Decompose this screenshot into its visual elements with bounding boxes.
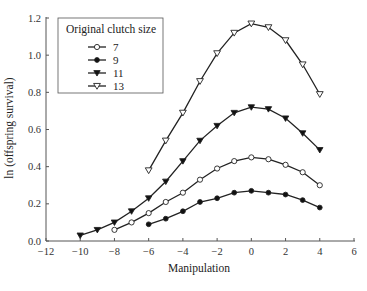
data-point bbox=[163, 199, 168, 204]
data-point bbox=[163, 216, 168, 221]
y-tick-label: 0.0 bbox=[28, 236, 41, 247]
data-point bbox=[129, 220, 134, 225]
legend-label: 13 bbox=[113, 80, 125, 92]
y-tick-label: 1.0 bbox=[28, 50, 41, 61]
data-point bbox=[300, 170, 305, 175]
y-tick-label: 0.2 bbox=[28, 198, 41, 209]
data-point bbox=[215, 166, 220, 171]
x-tick-label: 6 bbox=[351, 246, 356, 257]
series-11 bbox=[77, 105, 323, 239]
legend-label: 9 bbox=[113, 54, 119, 66]
y-axis-title: ln (offspring survival) bbox=[3, 77, 16, 179]
data-point bbox=[317, 205, 322, 210]
data-point bbox=[232, 190, 237, 195]
data-point bbox=[145, 168, 152, 174]
data-point bbox=[197, 177, 202, 182]
x-axis-title: Manipulation bbox=[168, 262, 230, 275]
series-line bbox=[80, 107, 320, 235]
legend-title: Original clutch size bbox=[66, 23, 156, 36]
data-point bbox=[317, 183, 322, 188]
data-point bbox=[299, 62, 306, 68]
x-tick-label: −2 bbox=[212, 246, 223, 257]
data-point bbox=[232, 158, 237, 163]
legend-marker bbox=[94, 44, 99, 49]
data-point bbox=[146, 222, 151, 227]
x-tick-label: −6 bbox=[143, 246, 154, 257]
series-line bbox=[149, 24, 320, 171]
data-point bbox=[214, 51, 221, 57]
data-point bbox=[249, 155, 254, 160]
data-point bbox=[249, 188, 254, 193]
y-tick-label: 1.2 bbox=[28, 13, 41, 24]
x-tick-label: 4 bbox=[317, 246, 323, 257]
data-point bbox=[215, 196, 220, 201]
chart: −12−10−8−6−4−202460.00.20.40.60.81.01.2 … bbox=[0, 0, 367, 291]
data-point bbox=[180, 209, 185, 214]
data-point bbox=[317, 148, 323, 153]
series-7 bbox=[112, 155, 323, 233]
data-point bbox=[266, 190, 271, 195]
data-point bbox=[180, 190, 185, 195]
series-13 bbox=[145, 21, 323, 174]
data-point bbox=[77, 233, 83, 238]
data-point bbox=[197, 79, 204, 85]
x-tick-label: −10 bbox=[72, 246, 88, 257]
x-tick-label: −4 bbox=[177, 246, 189, 257]
series-9 bbox=[146, 188, 322, 226]
data-point bbox=[198, 200, 203, 205]
data-point bbox=[146, 211, 151, 216]
legend-label: 7 bbox=[113, 41, 119, 53]
x-tick-label: −12 bbox=[38, 246, 54, 257]
data-point bbox=[283, 192, 288, 197]
y-tick-label: 0.8 bbox=[28, 87, 41, 98]
data-point bbox=[283, 162, 288, 167]
x-tick-label: 2 bbox=[283, 246, 288, 257]
y-tick-label: 0.4 bbox=[28, 161, 42, 172]
data-point bbox=[316, 92, 323, 98]
legend-label: 11 bbox=[113, 67, 124, 79]
data-point bbox=[179, 110, 186, 116]
data-point bbox=[300, 198, 305, 203]
series-line bbox=[149, 191, 320, 225]
data-point bbox=[266, 157, 271, 162]
legend: Original clutch size 791113 bbox=[58, 18, 163, 93]
x-tick-label: 0 bbox=[249, 246, 254, 257]
legend-marker bbox=[95, 58, 100, 63]
y-tick-label: 0.6 bbox=[28, 124, 41, 135]
data-point bbox=[112, 227, 117, 232]
data-point bbox=[162, 138, 169, 144]
x-tick-label: −8 bbox=[109, 246, 120, 257]
